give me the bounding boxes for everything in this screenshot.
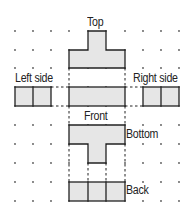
label-left-side: Left side [15, 72, 53, 85]
label-top: Top [87, 16, 103, 29]
net-diagram [0, 0, 188, 216]
bottom-view-shape [69, 125, 125, 163]
label-back: Back [126, 184, 149, 197]
left-side-view-shape [15, 87, 51, 106]
label-front: Front [84, 110, 108, 123]
label-right-side: Right side [133, 72, 178, 85]
right-side-view-shape [143, 87, 179, 106]
label-bottom: Bottom [126, 128, 158, 141]
top-view-shape [69, 31, 125, 68]
back-view-shape [69, 182, 125, 201]
center-view-shape [69, 87, 125, 106]
